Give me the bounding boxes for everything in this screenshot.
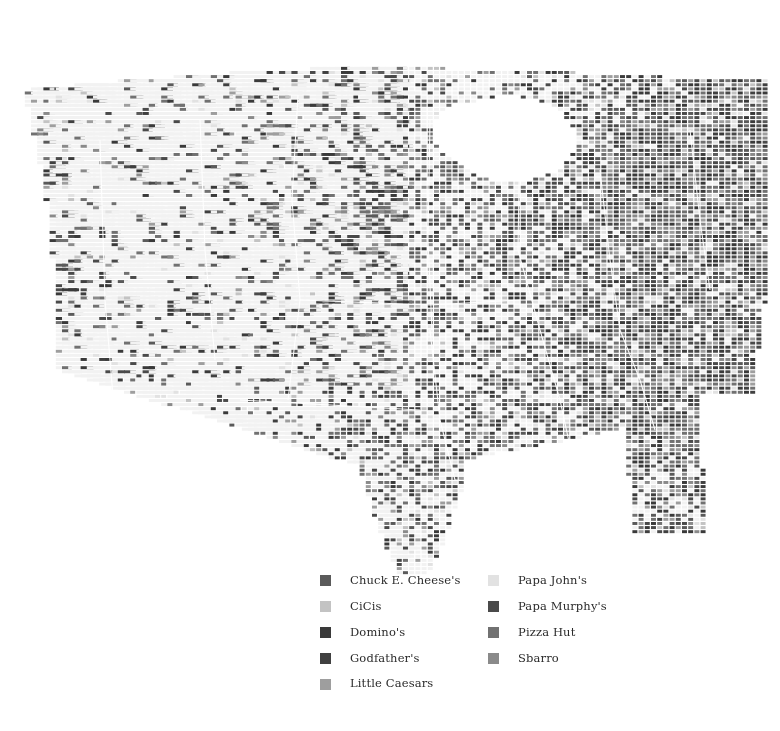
legend-item-label: Papa Murphy's <box>518 601 607 613</box>
legend-swatch-icon <box>488 653 499 664</box>
legend-item-label: Godfather's <box>350 653 420 665</box>
legend-item-label: CiCis <box>350 601 382 613</box>
legend-item-sbarro[interactable]: Sbarro <box>488 645 656 671</box>
legend-swatch-icon <box>320 679 331 690</box>
legend-item-label: Little Caesars <box>350 678 433 690</box>
legend-item-little-caesars[interactable]: Little Caesars <box>320 671 488 697</box>
legend-column-left: Chuck E. Cheese's CiCis Domino's Godfath… <box>320 568 488 697</box>
legend-item-label: Sbarro <box>518 653 559 665</box>
legend-item-papa-murphys[interactable]: Papa Murphy's <box>488 594 656 620</box>
legend-swatch-icon <box>320 653 331 664</box>
legend-swatch-icon <box>320 601 331 612</box>
legend-swatch-icon <box>488 575 499 586</box>
legend-column-right: Papa John's Papa Murphy's Pizza Hut Sbar… <box>488 568 656 671</box>
legend-item-label: Pizza Hut <box>518 627 575 639</box>
legend-swatch-icon <box>320 575 331 586</box>
pizza-chain-map-figure: Chuck E. Cheese's CiCis Domino's Godfath… <box>0 0 780 731</box>
legend-swatch-icon <box>488 601 499 612</box>
legend-item-label: Papa John's <box>518 575 587 587</box>
legend-item-papa-johns[interactable]: Papa John's <box>488 568 656 594</box>
legend-item-godfathers[interactable]: Godfather's <box>320 645 488 671</box>
legend-item-label: Domino's <box>350 627 405 639</box>
legend-swatch-icon <box>320 627 331 638</box>
map-legend: Chuck E. Cheese's CiCis Domino's Godfath… <box>320 568 660 698</box>
legend-item-label: Chuck E. Cheese's <box>350 575 461 587</box>
legend-item-chuck-e-cheeses[interactable]: Chuck E. Cheese's <box>320 568 488 594</box>
legend-item-cicis[interactable]: CiCis <box>320 594 488 620</box>
legend-item-dominos[interactable]: Domino's <box>320 620 488 646</box>
legend-swatch-icon <box>488 627 499 638</box>
legend-item-pizza-hut[interactable]: Pizza Hut <box>488 620 656 646</box>
